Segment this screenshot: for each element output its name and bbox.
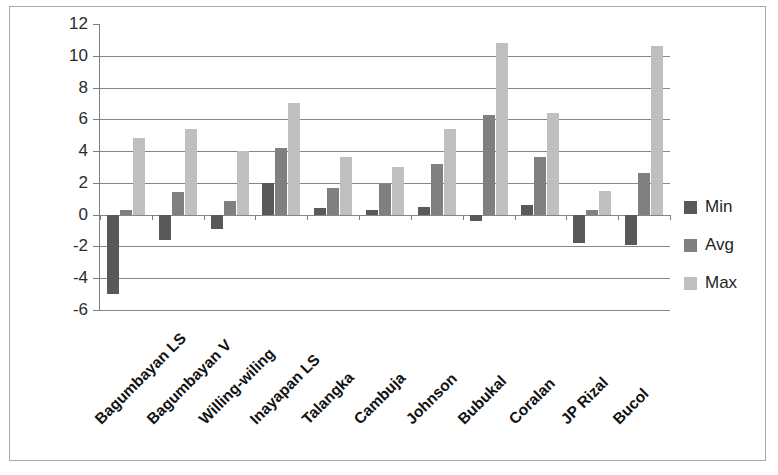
bar-max[interactable] bbox=[599, 191, 611, 215]
y-axis-tick-label: 6 bbox=[36, 110, 88, 127]
bar-max[interactable] bbox=[444, 129, 456, 215]
y-axis-tick-label: 12 bbox=[36, 15, 88, 32]
y-axis-tick-label: 8 bbox=[36, 79, 88, 96]
legend-item-min[interactable]: Min bbox=[684, 188, 764, 226]
bar-min[interactable] bbox=[159, 215, 171, 240]
y-axis-tick bbox=[93, 246, 100, 247]
bar-avg[interactable] bbox=[483, 115, 495, 215]
y-axis-tick bbox=[93, 310, 100, 311]
legend-label: Avg bbox=[705, 235, 734, 255]
bar-max[interactable] bbox=[392, 167, 404, 215]
bar-min[interactable] bbox=[470, 215, 482, 221]
bar-min[interactable] bbox=[625, 215, 637, 245]
bar-min[interactable] bbox=[107, 215, 119, 294]
bar-avg[interactable] bbox=[379, 184, 391, 214]
legend-swatch-icon bbox=[684, 277, 697, 290]
bar-avg[interactable] bbox=[120, 210, 132, 215]
chart-screenshot: 121086420-2-4-6 Bagumbayan LSBagumbayan … bbox=[0, 0, 778, 475]
bar-max[interactable] bbox=[185, 129, 197, 215]
legend-item-avg[interactable]: Avg bbox=[684, 226, 764, 264]
bar-min[interactable] bbox=[262, 183, 274, 215]
bar-group bbox=[470, 24, 508, 310]
y-axis-tick bbox=[93, 56, 100, 57]
y-axis-tick bbox=[93, 119, 100, 120]
bar-max[interactable] bbox=[651, 46, 663, 214]
y-axis-tick bbox=[93, 215, 100, 216]
category-tick bbox=[152, 215, 153, 220]
bar-min[interactable] bbox=[521, 205, 533, 215]
category-tick bbox=[515, 215, 516, 220]
y-axis-tick bbox=[93, 183, 100, 184]
legend-swatch-icon bbox=[684, 201, 697, 214]
legend-label: Max bbox=[705, 273, 737, 293]
bar-avg[interactable] bbox=[172, 192, 184, 214]
bar-min[interactable] bbox=[314, 208, 326, 214]
bar-avg[interactable] bbox=[638, 173, 650, 214]
bar-max[interactable] bbox=[547, 113, 559, 215]
y-axis-tick-label: 10 bbox=[36, 47, 88, 64]
y-axis-tick-label: 0 bbox=[36, 206, 88, 223]
y-axis-tick-label: -6 bbox=[36, 301, 88, 318]
category-tick bbox=[100, 215, 101, 220]
gridline bbox=[100, 310, 670, 311]
legend-swatch-icon bbox=[684, 239, 697, 252]
category-tick bbox=[411, 215, 412, 220]
y-axis-tick bbox=[93, 278, 100, 279]
bar-group bbox=[159, 24, 197, 310]
y-axis-label-list: 121086420-2-4-6 bbox=[30, 0, 88, 475]
bar-group bbox=[107, 24, 145, 310]
bar-min[interactable] bbox=[366, 210, 378, 215]
bar-max[interactable] bbox=[133, 138, 145, 214]
y-axis-tick-label: 4 bbox=[36, 142, 88, 159]
y-axis-tick bbox=[93, 151, 100, 152]
y-axis-tick bbox=[93, 24, 100, 25]
category-tick bbox=[359, 215, 360, 220]
legend-label: Min bbox=[705, 197, 732, 217]
chart-legend: MinAvgMax bbox=[684, 188, 764, 302]
bar-group bbox=[625, 24, 663, 310]
bar-max[interactable] bbox=[288, 103, 300, 214]
category-tick bbox=[204, 215, 205, 220]
bar-avg[interactable] bbox=[534, 157, 546, 214]
category-tick bbox=[255, 215, 256, 220]
bar-max[interactable] bbox=[340, 157, 352, 214]
bar-min[interactable] bbox=[418, 207, 430, 215]
bar-group bbox=[314, 24, 352, 310]
y-axis-tick-label: 2 bbox=[36, 174, 88, 191]
bar-group bbox=[521, 24, 559, 310]
plot-area bbox=[100, 24, 670, 310]
bar-max[interactable] bbox=[496, 43, 508, 215]
bar-avg[interactable] bbox=[327, 188, 339, 215]
bar-avg[interactable] bbox=[586, 210, 598, 215]
bar-max[interactable] bbox=[237, 151, 249, 215]
bar-group bbox=[418, 24, 456, 310]
bar-group bbox=[573, 24, 611, 310]
bar-group bbox=[262, 24, 300, 310]
category-tick bbox=[566, 215, 567, 220]
legend-item-max[interactable]: Max bbox=[684, 264, 764, 302]
bar-group bbox=[211, 24, 249, 310]
bar-avg[interactable] bbox=[431, 164, 443, 215]
category-tick bbox=[670, 215, 671, 220]
y-axis-tick-label: -4 bbox=[36, 269, 88, 286]
category-tick bbox=[307, 215, 308, 220]
bar-min[interactable] bbox=[211, 215, 223, 229]
y-axis-tick bbox=[93, 88, 100, 89]
bar-min[interactable] bbox=[573, 215, 585, 244]
category-tick bbox=[618, 215, 619, 220]
bar-avg[interactable] bbox=[224, 201, 236, 215]
bar-avg[interactable] bbox=[275, 148, 287, 215]
y-axis-tick-label: -2 bbox=[36, 237, 88, 254]
category-tick bbox=[463, 215, 464, 220]
bar-group bbox=[366, 24, 404, 310]
